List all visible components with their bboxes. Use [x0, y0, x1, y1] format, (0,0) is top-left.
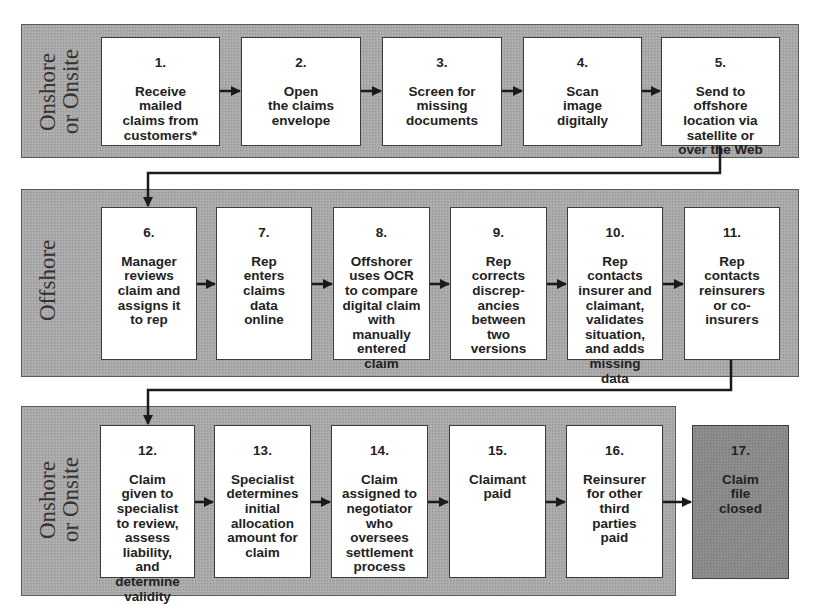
step-15-number: 15.	[450, 444, 545, 459]
step-5: 5. Send to offshore location via satelli…	[661, 37, 780, 146]
step-17-text: Claim file closed	[719, 472, 762, 516]
step-17-number: 17.	[693, 444, 788, 459]
step-5-number: 5.	[662, 56, 779, 71]
step-10: 10. Rep contacts insurer and claimant, v…	[567, 207, 663, 360]
step-9-number: 9.	[451, 226, 546, 241]
step-1: 1. Receive mailed claims from customers*	[101, 37, 220, 146]
step-6-text: Manager reviews claim and assigns it to …	[118, 254, 180, 327]
step-13: 13. Specialist determines initial alloca…	[214, 425, 311, 578]
step-14-text: Claim assigned to negotiator who oversee…	[342, 472, 417, 575]
step-3-number: 3.	[383, 56, 501, 71]
step-2-text: Open the claims envelope	[268, 84, 334, 128]
lane-label-offshore: Offshore	[36, 225, 66, 335]
step-7-text: Rep enters claims data online	[243, 254, 285, 327]
step-9: 9. Rep corrects discrep- ancies between …	[450, 207, 547, 360]
step-13-text: Specialist determines initial allocation…	[226, 472, 298, 560]
step-16-number: 16.	[567, 444, 662, 459]
step-11: 11. Rep contacts reinsurers or co- insur…	[684, 207, 780, 360]
step-5-text: Send to offshore location via satellite …	[678, 84, 763, 157]
step-12-number: 12.	[101, 444, 194, 459]
step-6: 6. Manager reviews claim and assigns it …	[101, 207, 197, 360]
step-10-text: Rep contacts insurer and claimant, valid…	[578, 254, 652, 386]
lane-label-onshore-top: Onshore or Onsite	[36, 44, 84, 140]
step-2: 2. Open the claims envelope	[241, 37, 361, 146]
step-11-text: Rep contacts reinsurers or co- insurers	[699, 254, 765, 327]
step-13-number: 13.	[215, 444, 310, 459]
step-3-text: Screen for missing documents	[406, 84, 478, 128]
step-15: 15. Claimant paid	[449, 425, 546, 578]
step-12-text: Claim given to specialist to review, ass…	[115, 472, 180, 604]
step-8: 8. Offshorer uses OCR to compare digital…	[333, 207, 430, 360]
step-10-number: 10.	[568, 226, 662, 241]
step-3: 3. Screen for missing documents	[382, 37, 502, 146]
step-9-text: Rep corrects discrep- ancies between two…	[471, 254, 527, 357]
step-6-number: 6.	[102, 226, 196, 241]
step-1-number: 1.	[102, 56, 219, 71]
step-8-number: 8.	[334, 226, 429, 241]
step-7-number: 7.	[217, 226, 311, 241]
step-4-number: 4.	[524, 56, 641, 71]
step-14: 14. Claim assigned to negotiator who ove…	[331, 425, 428, 578]
step-11-number: 11.	[685, 226, 779, 241]
step-1-text: Receive mailed claims from customers*	[123, 84, 199, 143]
step-15-text: Claimant paid	[469, 472, 526, 502]
step-8-text: Offshorer uses OCR to compare digital cl…	[342, 254, 420, 371]
step-4-text: Scan image digitally	[557, 84, 608, 128]
step-14-number: 14.	[332, 444, 427, 459]
step-16-text: Reinsurer for other third parties paid	[583, 472, 646, 545]
step-16: 16. Reinsurer for other third parties pa…	[566, 425, 663, 578]
step-7: 7. Rep enters claims data online	[216, 207, 312, 360]
step-4: 4. Scan image digitally	[523, 37, 642, 146]
lane-label-onshore-bottom: Onshore or Onsite	[36, 445, 84, 555]
step-12: 12. Claim given to specialist to review,…	[100, 425, 195, 578]
step-2-number: 2.	[242, 56, 360, 71]
step-17-final: 17. Claim file closed	[692, 425, 789, 579]
